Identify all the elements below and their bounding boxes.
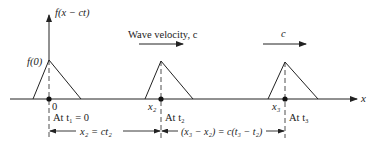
dimension-label-1: x₂ = ct₂: [79, 126, 112, 137]
x-axis-label: x: [360, 92, 366, 104]
pulse-3: [268, 62, 318, 99]
dimension-label-2: (x₃ − x₂) = c(t₃ − t₂): [181, 126, 263, 138]
position-dot-3: [282, 96, 287, 101]
time-label-1: At t₁ = 0: [53, 112, 89, 123]
position-dot-2: [158, 96, 163, 101]
diagram-svg: x f(x − ct) f(0) Wave velocity, c c 0 x₂…: [0, 0, 370, 158]
position-label-2: x₂: [147, 101, 157, 112]
time-label-3: At t₃: [289, 112, 309, 123]
peak-label: f(0): [27, 56, 43, 68]
pulse-2: [145, 61, 193, 99]
position-label-3: x₃: [271, 101, 281, 112]
wave-velocity-label: Wave velocity, c: [128, 29, 198, 40]
time-label-2: At t₂: [165, 112, 185, 123]
velocity-c-label: c: [281, 28, 286, 39]
wave-diagram: x f(x − ct) f(0) Wave velocity, c c 0 x₂…: [0, 0, 370, 158]
position-dot-1: [46, 96, 51, 101]
y-axis-label: f(x − ct): [55, 7, 90, 19]
position-label-1: 0: [52, 101, 57, 112]
